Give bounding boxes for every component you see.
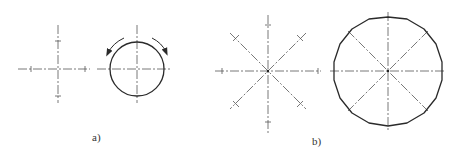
rotate-right-arrow-icon — [152, 38, 166, 52]
figure-b-label: b) — [312, 135, 321, 147]
diagram-canvas — [0, 0, 454, 157]
tick-mark — [297, 101, 303, 107]
figure-a-label: a) — [92, 131, 101, 143]
tick-mark — [233, 35, 239, 41]
tick-mark — [297, 35, 303, 41]
figure-a-circle — [97, 25, 172, 103]
tick-mark — [233, 101, 239, 107]
center-point — [267, 70, 269, 72]
rotate-left-arrow-icon — [108, 38, 124, 53]
figure-a-cross — [18, 25, 90, 103]
figure-b-star — [215, 15, 321, 133]
center-point — [387, 70, 389, 72]
figure-b-circle — [330, 12, 446, 130]
